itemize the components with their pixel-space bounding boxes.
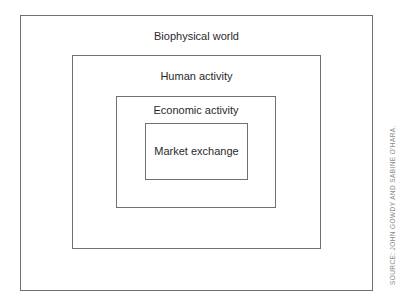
economic-activity-label: Economic activity bbox=[117, 104, 275, 116]
market-exchange-label: Market exchange bbox=[146, 145, 247, 157]
market-exchange-box: Market exchange bbox=[145, 123, 248, 180]
source-credit: SOURCE: JOHN GOWDY AND SABINE O'HARA. bbox=[389, 125, 396, 285]
biophysical-world-label: Biophysical world bbox=[21, 30, 372, 42]
human-activity-label: Human activity bbox=[73, 70, 320, 82]
